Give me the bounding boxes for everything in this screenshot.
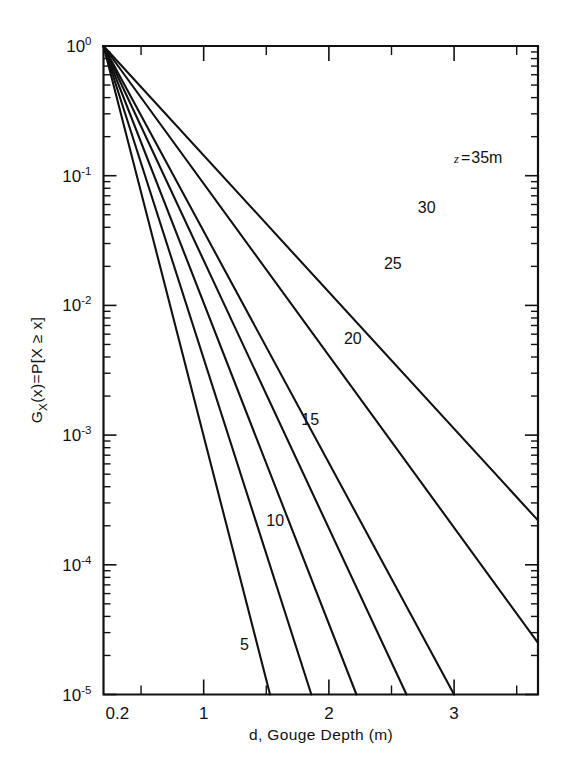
ylabel-g: G xyxy=(28,411,45,423)
ylabel-p: P xyxy=(28,363,45,374)
x-axis-tick-label: 0.2 xyxy=(106,704,130,723)
curve-label-z-5: 5 xyxy=(240,636,249,653)
x-axis-tick-label: 2 xyxy=(324,704,333,723)
curve-label-z-30: 30 xyxy=(418,199,436,216)
curve-label-z-35: z=35m xyxy=(453,149,502,166)
x-axis-tick-label: 3 xyxy=(449,704,458,723)
x-axis-title-text: d, Gouge Depth (m) xyxy=(249,726,393,743)
figure-container: 10010-110-210-310-410-5 0.2123 510152025… xyxy=(0,0,576,773)
gouge-depth-exceedance-chart: 10010-110-210-310-410-5 0.2123 510152025… xyxy=(0,0,576,773)
x-axis-tick-label: 1 xyxy=(199,704,208,723)
ylabel-g-arg: (x) xyxy=(28,384,45,403)
ylabel-g-subscript: X xyxy=(37,403,49,411)
curve-label-z-20: 20 xyxy=(344,330,362,347)
ylabel-equals: = xyxy=(28,374,45,383)
curve-label-z-10: 10 xyxy=(266,512,284,529)
curve-label-z-15: 15 xyxy=(301,411,319,428)
x-axis-title: d, Gouge Depth (m) xyxy=(249,726,393,743)
ylabel-bracket-close: ] xyxy=(28,317,45,322)
curve-label-z-25: 25 xyxy=(384,255,402,272)
ylabel-x-ge-x: X ≥ x xyxy=(28,321,45,358)
